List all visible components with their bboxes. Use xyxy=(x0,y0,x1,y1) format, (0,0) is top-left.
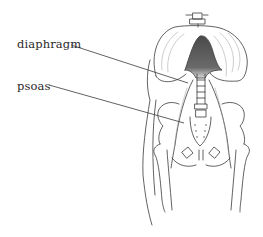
pubic-bone xyxy=(172,158,230,166)
pelvis-right-ilium xyxy=(222,102,245,144)
top-vertebra xyxy=(186,13,208,27)
leader-line-diaphragm xyxy=(71,45,188,83)
diaphragm-central-tendon xyxy=(185,36,222,78)
leader-line-psoas xyxy=(49,85,184,123)
sacral-foramina xyxy=(194,124,206,137)
anatomy-drawing xyxy=(0,0,263,237)
femur-right xyxy=(231,144,249,212)
obturator-left xyxy=(182,147,193,158)
sacrum xyxy=(190,117,211,146)
obturator-right xyxy=(209,147,220,158)
psoas-muscles xyxy=(171,80,231,168)
femur-left xyxy=(154,144,172,212)
label-diaphragm: diaphragm xyxy=(17,37,81,51)
body-contour-left xyxy=(143,60,152,225)
label-psoas: psoas xyxy=(17,79,50,93)
lumbar-spine xyxy=(195,74,207,117)
